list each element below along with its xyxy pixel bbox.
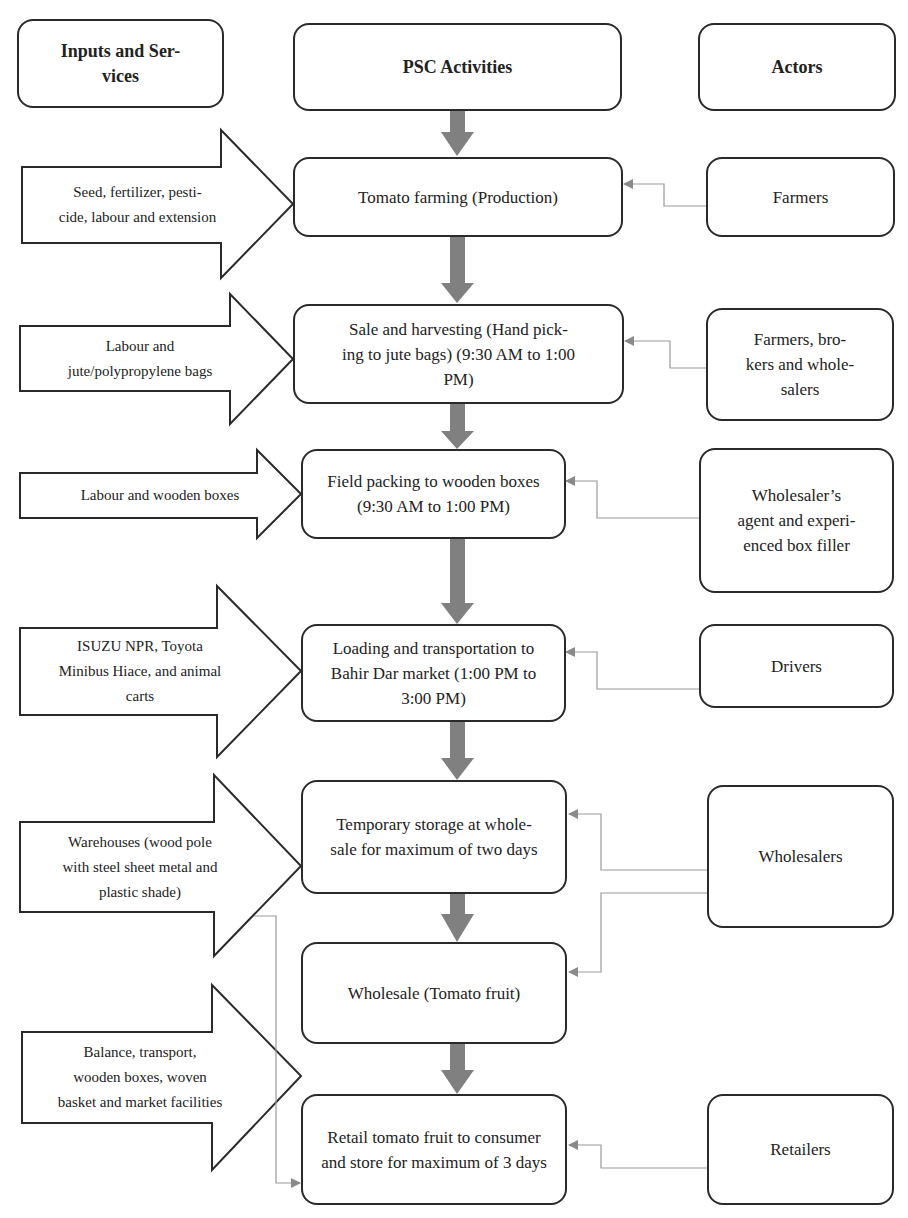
flow-arrow-down-icon — [441, 894, 474, 942]
flow-arrow-down-icon — [441, 403, 474, 449]
input-label: Balance, transport, wooden boxes, woven … — [30, 1032, 250, 1123]
input-label: ISUZU NPR, Toyota Minibus Hiace, and ani… — [30, 628, 250, 715]
header-actors: Actors — [698, 23, 896, 111]
connector-box-filler — [566, 481, 699, 518]
header-actors-label: Actors — [772, 55, 823, 80]
flow-arrow-down-icon — [441, 237, 474, 303]
flow-arrow-down-icon — [441, 110, 474, 156]
input-label: Labour and jute/polypropylene bags — [30, 326, 250, 391]
actor-box: Wholesaler’s agent and experi- enced box… — [699, 448, 894, 593]
flow-arrow-down-icon — [441, 539, 474, 624]
connector-retailers — [569, 1145, 707, 1168]
activity-box: Retail tomato fruit to consumer and stor… — [301, 1094, 567, 1205]
header-inputs-label: Inputs and Ser- vices — [61, 39, 180, 89]
activity-box: Tomato farming (Production) — [293, 157, 623, 237]
activity-box: Temporary storage at whole- sale for max… — [301, 780, 567, 894]
input-label: Warehouses (wood pole with steel sheet m… — [30, 822, 250, 912]
actor-box: Drivers — [699, 624, 894, 708]
actor-box: Farmers, bro- kers and whole- salers — [706, 308, 894, 421]
activity-box: Field packing to wooden boxes (9:30 AM t… — [301, 449, 566, 539]
connector-wholesalers-wholesale — [569, 893, 707, 972]
connector-wholesalers-storage — [569, 814, 707, 870]
flow-arrow-down-icon — [441, 1044, 474, 1094]
activity-box: Sale and harvesting (Hand pick- ing to j… — [293, 304, 624, 404]
input-label: Seed, fertilizer, pesti- cide, labour an… — [30, 167, 245, 243]
actor-box: Retailers — [707, 1094, 894, 1205]
activity-box: Loading and transportation to Bahir Dar … — [301, 624, 566, 722]
connector-brokers — [625, 341, 706, 368]
flow-arrow-down-icon — [441, 722, 474, 780]
input-label: Labour and wooden boxes — [40, 473, 280, 518]
actor-box: Farmers — [706, 157, 895, 237]
header-psc-activities: PSC Activities — [293, 23, 622, 111]
header-activities-label: PSC Activities — [403, 55, 513, 80]
connector-drivers — [566, 652, 699, 689]
activity-box: Wholesale (Tomato fruit) — [301, 942, 567, 1044]
header-inputs-and-services: Inputs and Ser- vices — [17, 19, 224, 108]
connector-farmers — [624, 184, 706, 206]
actor-box: Wholesalers — [707, 785, 894, 928]
